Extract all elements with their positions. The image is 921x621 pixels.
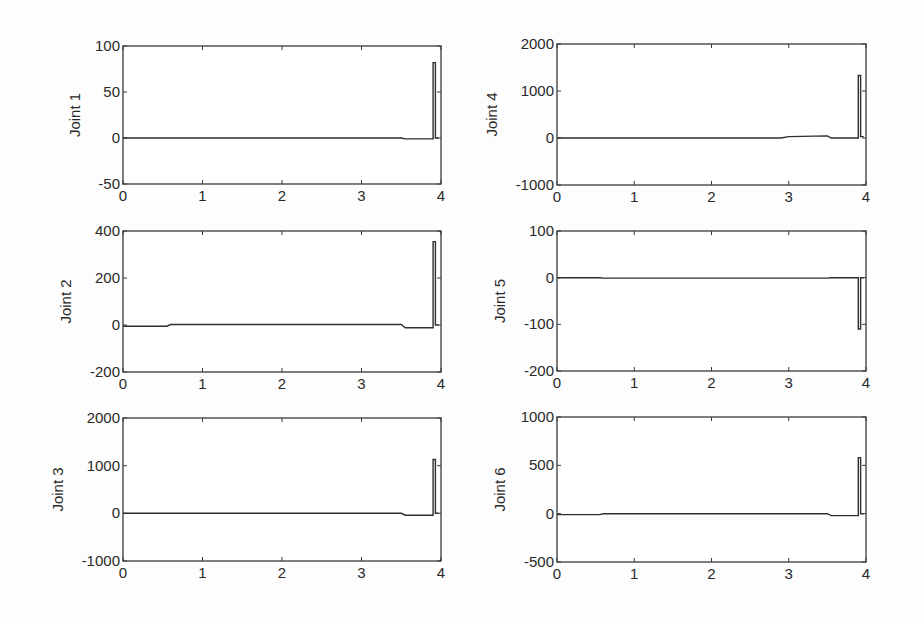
y-tick-label: 100 <box>529 222 554 239</box>
y-tick-label: -100 <box>524 315 554 332</box>
y-tick-label: 1000 <box>521 82 554 99</box>
x-tick-label: 0 <box>553 565 561 582</box>
y-tick-label: 0 <box>546 269 554 286</box>
x-tick-label: 4 <box>437 187 445 204</box>
axes-frame <box>557 417 866 562</box>
x-tick-label: 4 <box>437 564 445 581</box>
y-tick-label: 1000 <box>521 408 554 425</box>
subplot-joint-4: 01234-1000010002000Joint 4 <box>483 35 871 205</box>
y-tick-label: 0 <box>112 129 120 146</box>
y-tick-label: 1000 <box>87 457 120 474</box>
x-tick-label: 3 <box>785 188 793 205</box>
y-tick-label: 50 <box>103 83 120 100</box>
y-axis-label: Joint 1 <box>66 93 83 137</box>
y-axis-label: Joint 6 <box>491 467 508 511</box>
x-tick-label: 2 <box>278 375 286 392</box>
axes-frame <box>557 44 866 185</box>
y-tick-label: -50 <box>98 175 120 192</box>
x-tick-label: 2 <box>707 565 715 582</box>
x-tick-label: 2 <box>707 374 715 391</box>
y-tick-label: 400 <box>95 222 120 239</box>
y-axis-label: Joint 2 <box>57 279 74 323</box>
x-tick-label: 1 <box>198 187 206 204</box>
y-tick-label: 0 <box>112 504 120 521</box>
x-tick-label: 4 <box>862 188 870 205</box>
x-tick-label: 3 <box>785 374 793 391</box>
y-axis-label: Joint 4 <box>483 92 500 136</box>
y-tick-label: 100 <box>95 37 120 54</box>
subplot-grid: 01234-50050100Joint 101234-2000200400Joi… <box>0 0 921 621</box>
x-tick-label: 1 <box>630 374 638 391</box>
y-tick-label: 0 <box>112 316 120 333</box>
y-tick-label: -200 <box>90 363 120 380</box>
x-tick-label: 0 <box>119 375 127 392</box>
y-tick-label: 2000 <box>87 409 120 426</box>
y-tick-label: -1000 <box>82 552 120 569</box>
x-tick-label: 4 <box>862 374 870 391</box>
axes-frame <box>123 418 441 561</box>
x-tick-label: 3 <box>785 565 793 582</box>
y-tick-label: 200 <box>95 269 120 286</box>
x-tick-label: 3 <box>357 187 365 204</box>
x-tick-label: 3 <box>357 564 365 581</box>
x-tick-label: 2 <box>707 188 715 205</box>
x-tick-label: 1 <box>630 188 638 205</box>
y-tick-label: 500 <box>529 456 554 473</box>
subplot-joint-5: 01234-200-1000100Joint 5 <box>491 222 870 391</box>
axes-frame <box>557 231 866 371</box>
y-axis-label: Joint 5 <box>491 279 508 323</box>
subplot-joint-3: 01234-1000010002000Joint 3 <box>49 409 446 581</box>
x-tick-label: 0 <box>553 374 561 391</box>
subplot-joint-1: 01234-50050100Joint 1 <box>66 37 446 204</box>
figure: 01234-50050100Joint 101234-2000200400Joi… <box>0 0 921 621</box>
x-tick-label: 2 <box>278 187 286 204</box>
axes-frame <box>123 46 441 184</box>
x-tick-label: 1 <box>198 375 206 392</box>
x-tick-label: 0 <box>119 187 127 204</box>
y-tick-label: 0 <box>546 129 554 146</box>
y-tick-label: -500 <box>524 553 554 570</box>
x-tick-label: 3 <box>357 375 365 392</box>
x-tick-label: 0 <box>119 564 127 581</box>
x-tick-label: 1 <box>198 564 206 581</box>
x-tick-label: 4 <box>862 565 870 582</box>
y-tick-label: 0 <box>546 505 554 522</box>
subplot-joint-6: 01234-50005001000Joint 6 <box>491 408 870 582</box>
y-tick-label: 2000 <box>521 35 554 52</box>
y-tick-label: -1000 <box>516 176 554 193</box>
axes-frame <box>123 231 441 372</box>
y-tick-label: -200 <box>524 362 554 379</box>
y-axis-label: Joint 3 <box>49 467 66 511</box>
x-tick-label: 4 <box>437 375 445 392</box>
x-tick-label: 0 <box>553 188 561 205</box>
x-tick-label: 2 <box>278 564 286 581</box>
subplot-joint-2: 01234-2000200400Joint 2 <box>57 222 445 392</box>
x-tick-label: 1 <box>630 565 638 582</box>
